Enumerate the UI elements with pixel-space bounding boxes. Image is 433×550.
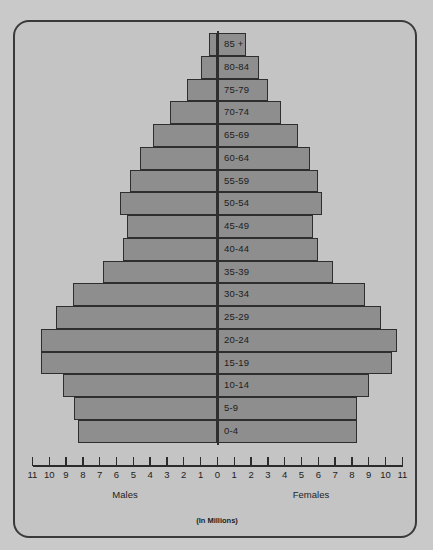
chart-frame (13, 20, 417, 538)
